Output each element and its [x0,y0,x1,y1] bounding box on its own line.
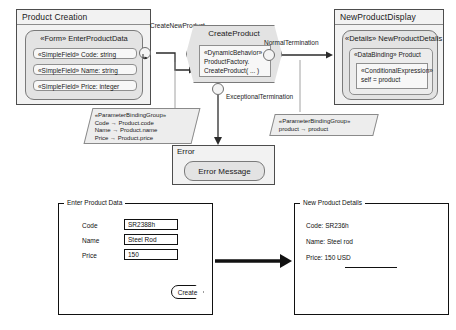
conditional-expression-box: «ConditionalExpression» self = product [356,63,428,89]
diagram-canvas: Product Creation «Form» EnterProductData… [0,0,456,330]
note-left-line-3: Name → Product.name [95,127,189,135]
note-parameter-binding-right: «ParameterBindingGroup» product → produc… [269,114,378,136]
note-parameter-binding-left: «ParameterBindingGroup» Code → Product.c… [84,108,201,144]
view-container-title: Product Creation [17,10,150,25]
mockup-detail-name: Name: Steel rod [306,238,353,245]
note-left-line-4: Price → Product.price [95,135,189,143]
edge-label-exceptional-termination: ExceptionalTermination [226,93,293,100]
action-behavior-box: «DynamicBehavior» ProductFactory. Create… [199,45,271,77]
view-container-error: Error Error Message [172,145,275,185]
event-port-create-new-product [139,47,151,59]
behavior-line-1: «DynamicBehavior» [204,48,266,57]
note-left-line-1: «ParameterBindingGroup» [95,112,189,120]
simple-field-code: «SimpleField» Code: string [33,48,137,59]
port-exceptional-termination [212,83,224,95]
form-header: «Form» EnterProductData [26,31,142,45]
event-arrow-icon [140,52,150,62]
note-right-line-1: «ParameterBindingGroup» [279,118,369,126]
view-container-body: «Form» EnterProductData «SimpleField» Co… [17,25,150,105]
note-left-content: «ParameterBindingGroup» Code → Product.c… [89,109,195,145]
expression-line-2: self = product [361,75,423,84]
view-container-body-right: «Details» NewProductDetails «DataBinding… [335,25,443,105]
mockup-input-code[interactable]: SR2388h [124,219,178,230]
view-container-title-right: NewProductDisplay [335,10,443,25]
mockup-right-divider [345,267,397,268]
note-right-content: «ParameterBindingGroup» product → produc… [273,115,375,136]
error-panel-title: Error [173,146,274,157]
simple-field-name: «SimpleField» Name: string [33,64,137,75]
mockup-left-legend: Enter Product Data [64,199,125,206]
mockup-detail-code: Code: SR236h [306,222,349,229]
mockup-label-price: Price [82,252,97,259]
edge-label-normal-termination: NormalTermination [264,39,319,46]
view-container-product-creation: Product Creation «Form» EnterProductData… [16,9,151,105]
mockup-detail-price: Price: 150 USD [306,254,351,261]
view-container-new-product-display: NewProductDisplay «Details» NewProductDe… [334,9,444,105]
port-normal-termination [263,49,275,61]
data-binding-label: «DataBinding» Product [350,49,432,60]
mockup-input-price[interactable]: 150 [124,249,178,260]
simple-field-price: «SimpleField» Price: integer [33,80,137,91]
behavior-line-3: CreateProduct( ... ) [204,66,266,75]
details-new-product-details: «Details» NewProductDetails «DataBinding… [342,30,438,100]
mockup-right-legend: New Product Details [300,199,365,206]
mockup-label-code: Code [82,222,98,229]
action-title: CreateProduct [187,26,281,40]
note-left-line-2: Code → Product.code [95,120,189,128]
form-enter-product-data: «Form» EnterProductData «SimpleField» Co… [25,30,143,100]
details-header: «Details» NewProductDetails [343,31,437,45]
error-message-box: Error Message [184,161,265,181]
data-binding-product: «DataBinding» Product «ConditionalExpres… [349,48,433,95]
note-right-line-2: product → product [279,126,369,134]
mockup-label-name: Name [82,237,99,244]
expression-line-1: «ConditionalExpression» [361,66,423,75]
behavior-line-2: ProductFactory. [204,57,266,66]
mockup-input-name[interactable]: Steel Rod [124,234,178,245]
